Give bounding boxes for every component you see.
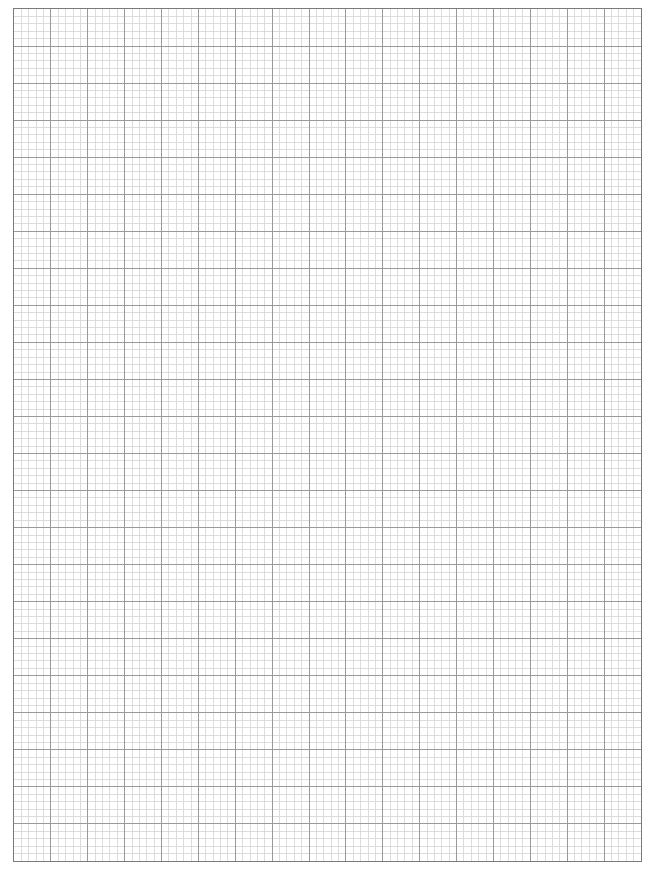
- graph-paper-page: [0, 0, 656, 874]
- grid-area: [13, 8, 642, 862]
- grid-lines: [14, 9, 641, 861]
